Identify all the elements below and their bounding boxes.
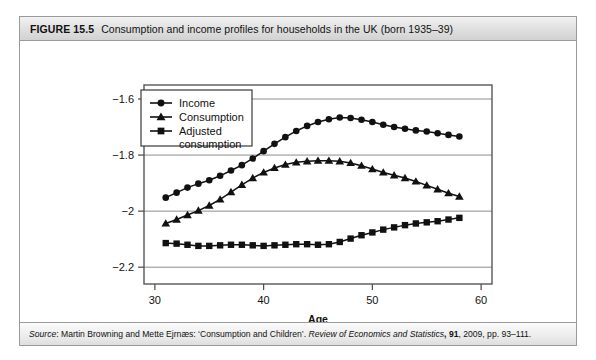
figure-container: FIGURE 15.5 Consumption and income profi… [19,16,577,346]
y-axis-tick-label: −1.6 [112,93,134,105]
x-axis-tick-label: 50 [366,294,378,306]
source-pages: , 2009, pp. 93–111. [458,329,531,339]
x-axis-tick-label: 60 [475,294,487,306]
line-chart: −1.6−1.8−2−2.230405060AgeIncomeConsumpti… [20,41,578,324]
figure-source-bar: Source: Martin Browning and Mette Ejrnæs… [20,322,576,345]
x-axis-tick-label: 30 [149,294,161,306]
legend-label: Consumption [179,111,244,123]
chart-plot-region: −1.6−1.8−2−2.230405060AgeIncomeConsumpti… [20,41,576,322]
legend-label-continued: consumption [179,138,241,150]
legend-label: Income [179,97,215,109]
figure-header: FIGURE 15.5 Consumption and income profi… [20,17,576,41]
y-axis-tick-label: −2 [121,205,134,217]
y-axis-tick-label: −2.2 [112,261,134,273]
figure-caption: Consumption and income profiles for hous… [101,23,453,35]
source-label: Source [29,329,56,339]
source-citation: Source: Martin Browning and Mette Ejrnæs… [29,329,531,339]
source-journal: Review of Economics and Statistics [308,329,444,339]
y-axis-tick-label: −1.8 [112,149,134,161]
legend-label: Adjusted [179,125,222,137]
source-volume: 91 [449,329,459,339]
figure-number: FIGURE 15.5 [30,23,94,35]
source-authors: : Martin Browning and Mette Ejrnæs: ‘Con… [56,329,308,339]
chart-legend: IncomeConsumptionAdjustedconsumption [141,90,252,150]
x-axis-tick-label: 40 [258,294,270,306]
